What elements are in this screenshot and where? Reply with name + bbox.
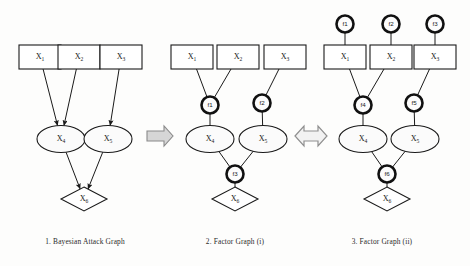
factor-label: f2: [259, 99, 265, 106]
edge-panel-1-x2-x4: [64, 69, 76, 126]
edge-panel-2-x4-f3: [219, 152, 230, 168]
edge-panel-2-x3-f2: [266, 69, 279, 95]
factor-label: f6: [384, 170, 390, 177]
edge-panel-3-x4-f6: [372, 152, 383, 167]
factor-label: f3: [232, 170, 238, 177]
factor-label: f5: [411, 99, 417, 106]
edge-panel-2-x2-f1: [214, 69, 231, 98]
edge-panel-3-x2-f4: [367, 69, 384, 98]
edge-panel-1-x4-x6: [66, 152, 80, 189]
panel-caption-panel-1: 1. Bayesian Attack Graph: [45, 237, 125, 246]
figure-canvas: X1X2X3X4X5X6X1X2X3X4X5X6f1f2f3X1X2X3X4X5…: [0, 0, 470, 266]
factor-label: f2: [388, 20, 394, 27]
factor-label: f4: [360, 101, 366, 108]
panel-caption-panel-3: 3. Factor Graph (ii): [352, 237, 413, 246]
captions-layer: 1. Bayesian Attack Graph2. Factor Graph …: [45, 237, 412, 246]
connectors-layer: [147, 126, 327, 146]
diagram-svg: X1X2X3X4X5X6X1X2X3X4X5X6f1f2f3X1X2X3X4X5…: [0, 0, 470, 266]
nodes-layer: X1X2X3X4X5X6X1X2X3X4X5X6f1f2f3X1X2X3X4X5…: [19, 16, 456, 212]
transform-arrow-right: [147, 126, 173, 146]
factor-label: f3: [432, 20, 438, 27]
edge-panel-3-x1-f4: [350, 69, 361, 97]
edge-panel-3-x3-f5: [418, 69, 430, 95]
edge-panel-2-x1-f1: [197, 69, 208, 97]
panel-caption-panel-2: 2. Factor Graph (i): [206, 237, 265, 246]
factor-label: f1: [342, 20, 348, 27]
edge-panel-1-x5-x6: [88, 152, 103, 189]
edge-panel-1-x3-x5: [110, 69, 119, 126]
factor-label: f1: [207, 101, 213, 108]
edge-panel-1-x1-x4: [43, 69, 58, 126]
edge-panel-2-x5-f3: [240, 151, 253, 167]
equivalence-arrow-double: [295, 126, 327, 146]
edge-panel-3-x5-f6: [392, 151, 405, 167]
